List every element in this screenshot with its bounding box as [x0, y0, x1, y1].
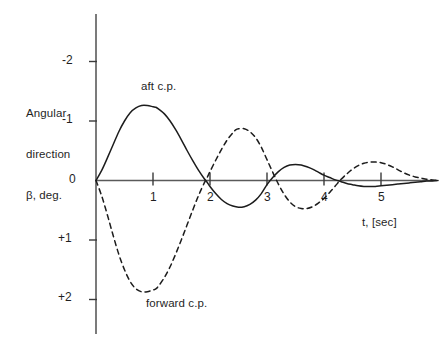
y-tick-label--1: -1 — [62, 113, 73, 127]
x-tick-label-3: 3 — [264, 191, 271, 205]
annotation-forward-cp: forward c.p. — [146, 297, 207, 311]
x-tick-label-2: 2 — [207, 191, 214, 205]
series-line-forward-cp — [96, 128, 438, 292]
y-axis-title-line-3: β, deg. — [26, 188, 70, 202]
y-tick-label-+1: +1 — [58, 232, 72, 246]
x-tick-label-4: 4 — [321, 191, 328, 205]
y-tick-label--2: -2 — [62, 54, 73, 68]
annotation-aft-cp: aft c.p. — [141, 80, 176, 94]
chart-figure: Angular direction β, deg. t, [sec] -2 -1… — [0, 0, 443, 346]
y-axis-title: Angular direction β, deg. — [26, 79, 70, 229]
y-tick-label-+2: +2 — [58, 291, 72, 305]
x-tick-label-1: 1 — [150, 191, 157, 205]
y-tick-label-0: 0 — [69, 173, 76, 187]
x-tick-label-5: 5 — [378, 191, 385, 205]
y-axis-title-line-2: direction — [26, 147, 70, 161]
x-axis-title: t, [sec] — [362, 216, 397, 230]
